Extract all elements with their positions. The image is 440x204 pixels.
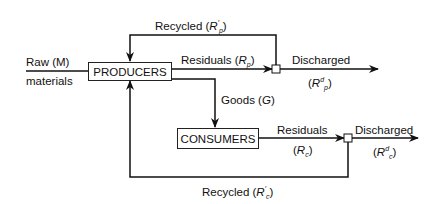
consumers-label: CONSUMERS	[181, 133, 256, 145]
discharged-p-label: Discharged	[292, 55, 350, 67]
recycled-p-label: Recycled (R′p)	[155, 19, 227, 34]
junction-c	[344, 134, 352, 142]
consumers-node: CONSUMERS	[177, 128, 259, 149]
residuals-c-label: Residuals	[277, 125, 328, 137]
materials-flow-diagram: PRODUCERS CONSUMERS Raw (M) materials Re…	[0, 0, 440, 204]
producers-node: PRODUCERS	[88, 62, 172, 81]
recycled-c-label: Recycled (R′c)	[202, 185, 273, 200]
discharged-p-symbol: (Rdp)	[308, 76, 332, 91]
discharged-c-symbol: (Rdc)	[373, 145, 396, 160]
goods-label: Goods (G)	[221, 95, 275, 107]
raw-label: Raw (M)	[26, 57, 69, 69]
materials-label: materials	[26, 76, 73, 88]
producers-label: PRODUCERS	[93, 66, 166, 78]
goods-line	[171, 79, 215, 127]
junction-p	[272, 65, 280, 73]
residuals-p-label: Residuals (Rp)	[181, 55, 255, 68]
discharged-c-label: Discharged	[355, 125, 413, 137]
residuals-c-symbol: (Rc)	[293, 145, 313, 158]
